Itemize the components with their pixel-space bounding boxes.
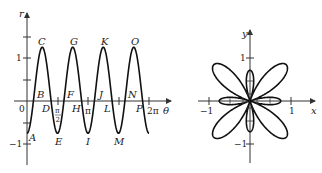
theta-axis-label: θ: [163, 105, 169, 116]
point-label-I: I: [85, 136, 91, 147]
origin-label: 0: [19, 104, 25, 114]
diagram-canvas: r θ 1 −1 0 π 2 π 2π A B C D E F G H I J …: [0, 0, 322, 173]
right-graph: y x −1 1 1 −1: [198, 28, 317, 163]
point-label-B: B: [36, 89, 44, 100]
tick-label-2pi: 2π: [147, 106, 159, 116]
point-label-C: C: [38, 36, 46, 47]
tick-label-pi: π: [85, 106, 91, 116]
point-label-F: F: [66, 89, 75, 100]
tick-label-x-neg1: −1: [200, 106, 213, 116]
svg-text:2: 2: [56, 116, 60, 124]
point-label-A: A: [28, 132, 36, 143]
tick-label-r-1: 1: [16, 53, 22, 63]
point-label-N: N: [127, 89, 138, 100]
tick-label-y-neg1: −1: [234, 139, 247, 149]
point-label-D: D: [41, 103, 50, 114]
point-label-O: O: [131, 36, 139, 47]
point-label-E: E: [54, 136, 63, 147]
r-axis-label: r: [19, 8, 25, 19]
tick-label-r-neg1: −1: [9, 139, 22, 149]
point-label-P: P: [135, 103, 143, 114]
point-label-J: J: [97, 89, 104, 100]
x-axis-label: x: [311, 105, 317, 116]
point-label-G: G: [70, 36, 78, 47]
point-label-H: H: [71, 103, 81, 114]
tick-label-pi-over-2: π 2: [55, 107, 61, 124]
svg-text:π: π: [55, 107, 60, 115]
point-label-K: K: [100, 36, 109, 47]
point-label-L: L: [103, 103, 111, 114]
tick-label-y-1: 1: [240, 53, 246, 63]
tick-label-x-1: 1: [289, 106, 295, 116]
y-axis-label: y: [241, 28, 248, 39]
point-label-M: M: [113, 136, 125, 147]
left-graph: r θ 1 −1 0 π 2 π 2π A B C D E F G H I J …: [9, 8, 171, 165]
